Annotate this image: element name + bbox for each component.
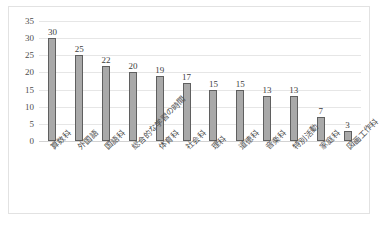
bar-value-label: 19	[155, 66, 164, 75]
bar-value-label: 13	[263, 86, 272, 95]
bar[interactable]: 13	[290, 96, 298, 141]
bar-value-label: 20	[128, 62, 137, 71]
bar[interactable]: 15	[236, 90, 244, 141]
bar-slot: 22	[93, 21, 120, 141]
x-label-slot: 総合的な学習の時間	[119, 143, 146, 217]
bar-value-label: 22	[102, 56, 111, 65]
bar[interactable]: 22	[102, 66, 110, 141]
x-label-slot: 特別活動	[280, 143, 307, 217]
chart-frame: 05101520253035 3025222019171515131373 算数…	[8, 6, 370, 214]
x-label-slot: 体育科	[146, 143, 173, 217]
bar-slot: 15	[227, 21, 254, 141]
bar-slot: 20	[119, 21, 146, 141]
bar-value-label: 7	[318, 107, 323, 116]
bar[interactable]: 25	[75, 55, 83, 141]
bar-value-label: 15	[209, 80, 218, 89]
bar-slot: 30	[39, 21, 66, 141]
bar-value-label: 3	[345, 121, 350, 130]
x-axis-category-labels: 算数科外国語国語科総合的な学習の時間体育科社会科理科道徳科音楽科特別活動家庭科図…	[39, 143, 361, 217]
bar-value-label: 13	[289, 86, 298, 95]
x-label-slot: 音楽科	[254, 143, 281, 217]
x-label-slot: 社会科	[173, 143, 200, 217]
bar-value-label: 30	[48, 28, 57, 37]
y-axis-tick-label: 20	[25, 68, 34, 77]
bar-value-label: 17	[182, 73, 191, 82]
y-axis-tick-label: 10	[25, 102, 34, 111]
bar-value-label: 15	[236, 80, 245, 89]
bar-slot: 13	[254, 21, 281, 141]
bar-value-label: 25	[75, 45, 84, 54]
x-label-slot: 国語科	[93, 143, 120, 217]
x-label-slot: 外国語	[66, 143, 93, 217]
bar-slot: 25	[66, 21, 93, 141]
bar-slot: 13	[280, 21, 307, 141]
bar-slot: 7	[307, 21, 334, 141]
x-label-slot: 算数科	[39, 143, 66, 217]
bar[interactable]: 15	[209, 90, 217, 141]
x-label-slot: 家庭科	[307, 143, 334, 217]
bar[interactable]: 20	[129, 72, 137, 141]
bar-slot: 3	[334, 21, 361, 141]
y-axis-tick-label: 0	[30, 137, 35, 146]
x-label-slot: 道徳科	[227, 143, 254, 217]
bar-slot: 17	[173, 21, 200, 141]
bar-slot: 15	[200, 21, 227, 141]
bar[interactable]: 17	[183, 83, 191, 141]
y-axis-tick-label: 35	[25, 17, 34, 26]
y-axis-tick-label: 5	[30, 119, 35, 128]
y-axis-tick-label: 15	[25, 85, 34, 94]
bar[interactable]: 30	[48, 38, 56, 141]
y-axis-tick-label: 25	[25, 51, 34, 60]
bar[interactable]: 13	[263, 96, 271, 141]
y-axis-tick-label: 30	[25, 34, 34, 43]
x-label-slot: 理科	[200, 143, 227, 217]
x-label-slot: 図画工作科	[334, 143, 361, 217]
